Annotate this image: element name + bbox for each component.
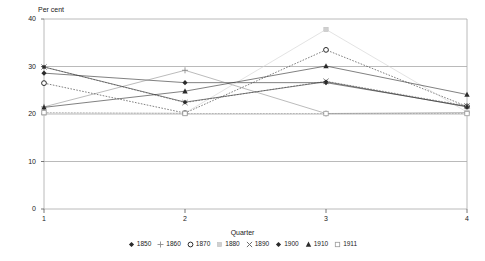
plot-area <box>0 0 485 261</box>
legend-marker-icon <box>305 241 312 248</box>
chart-legend: 18501860187018801890190019101911 <box>0 241 485 248</box>
legend-marker-icon <box>157 241 164 248</box>
data-point-1870-q1 <box>42 81 47 86</box>
x-tick-label: 1 <box>37 215 51 222</box>
x-tick-label: 3 <box>319 215 333 222</box>
data-point-1880-q3 <box>324 27 328 31</box>
legend-entry-1910[interactable]: 1910 <box>305 241 328 248</box>
data-point-1911-q4 <box>465 111 469 115</box>
legend-label: 1900 <box>284 241 298 248</box>
data-point-1850-q1 <box>41 71 46 76</box>
series-line-1880 <box>44 29 467 113</box>
legend-entry-1860[interactable]: 1860 <box>157 241 180 248</box>
legend-label: 1850 <box>137 241 151 248</box>
legend-entry-1870[interactable]: 1870 <box>187 241 210 248</box>
data-point-1911-q3 <box>324 111 328 115</box>
legend-marker-icon <box>275 241 282 248</box>
legend-label: 1880 <box>225 241 239 248</box>
data-point-1850-q2 <box>182 80 187 85</box>
y-tick-label: 30 <box>18 63 36 70</box>
data-point-1870-q3 <box>324 47 329 52</box>
series-line-1850 <box>44 73 467 106</box>
legend-marker-icon <box>187 241 194 248</box>
x-tick-label: 4 <box>460 215 474 222</box>
chart-container: Per cent 010203040 1234 Quarter 18501860… <box>0 0 485 261</box>
data-point-1911-q1 <box>42 110 46 114</box>
legend-marker-icon <box>334 241 341 248</box>
legend-label: 1890 <box>255 241 269 248</box>
x-tick-label: 2 <box>178 215 192 222</box>
data-point-1911-q2 <box>183 111 187 115</box>
y-tick-label: 0 <box>18 205 36 212</box>
legend-entry-1850[interactable]: 1850 <box>128 241 151 248</box>
data-point-1910-q3 <box>323 63 328 68</box>
data-point-1860-q2 <box>182 67 188 73</box>
series-line-1900 <box>44 67 467 107</box>
legend-entry-1911[interactable]: 1911 <box>334 241 357 248</box>
legend-entry-1890[interactable]: 1890 <box>246 241 269 248</box>
y-tick-label: 20 <box>18 110 36 117</box>
legend-entry-1880[interactable]: 1880 <box>216 241 239 248</box>
legend-marker-icon <box>246 241 253 248</box>
y-tick-label: 10 <box>18 158 36 165</box>
legend-marker-icon <box>128 241 135 248</box>
x-axis-title: Quarter <box>0 229 485 236</box>
legend-label: 1870 <box>196 241 210 248</box>
legend-label: 1911 <box>343 241 357 248</box>
legend-label: 1860 <box>166 241 180 248</box>
legend-marker-icon <box>216 241 223 248</box>
legend-entry-1900[interactable]: 1900 <box>275 241 298 248</box>
series-line-1910 <box>44 66 467 107</box>
y-tick-label: 40 <box>18 15 36 22</box>
legend-label: 1910 <box>314 241 328 248</box>
